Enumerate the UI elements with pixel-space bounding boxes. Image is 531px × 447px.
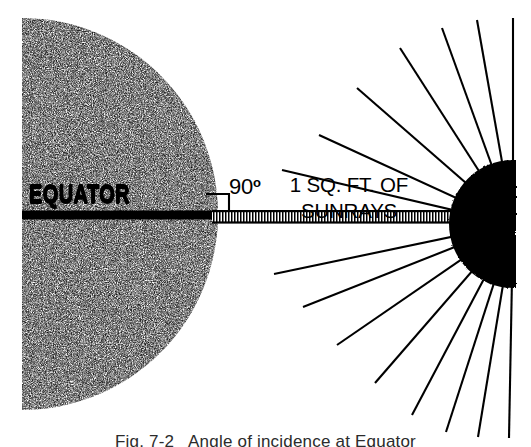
incidence-angle-label: 90o xyxy=(229,176,261,198)
sunray-label-line1: 1 SQ. FT. OF xyxy=(290,173,408,196)
diagram-canvas xyxy=(0,0,531,447)
figure-caption: Fig. 7-2 Angle of incidence at Equator xyxy=(0,432,531,447)
sunray-label-line2: SUNRAYS xyxy=(281,201,417,222)
sun-body xyxy=(449,160,516,288)
sunray-beam-label: 1 SQ. FT. OFSUNRAYS xyxy=(281,175,417,221)
angle-value: 90 xyxy=(229,174,253,199)
figure-container: EQUATOR 90o 1 SQ. FT. OFSUNRAYS Fig. 7-2… xyxy=(0,0,531,447)
equator-label: EQUATOR xyxy=(29,182,130,207)
equator-bar xyxy=(22,211,216,220)
degree-symbol: o xyxy=(253,175,261,190)
